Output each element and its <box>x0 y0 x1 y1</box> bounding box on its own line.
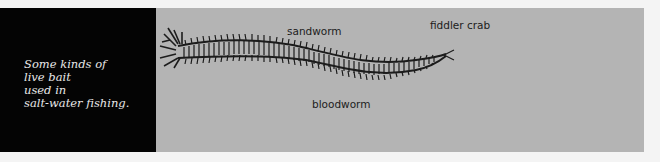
sandworm-label: sandworm <box>287 25 342 37</box>
figure-caption: Some kinds of live bait used in salt-wat… <box>24 58 129 110</box>
illustration-panel: sandworm bloodworm fiddler crab <box>156 8 644 152</box>
caption-panel: Some kinds of live bait used in salt-wat… <box>0 8 156 152</box>
illustrations-svg <box>156 8 644 152</box>
bloodworm-label: bloodworm <box>312 98 370 110</box>
fiddler-crab-label: fiddler crab <box>430 19 490 31</box>
bait-figure: Some kinds of live bait used in salt-wat… <box>0 8 644 152</box>
caption-line: salt-water fishing. <box>24 97 129 110</box>
